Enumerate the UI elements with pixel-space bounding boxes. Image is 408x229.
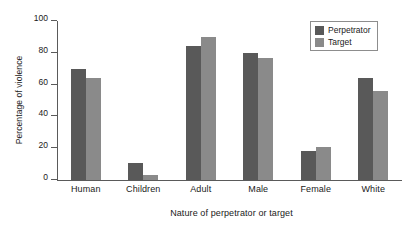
bar-perpetrator-children [128,163,143,180]
bar-perpetrator-female [301,151,316,180]
legend-label-target: Target [328,37,352,47]
y-axis-tick-label: 80 [39,45,48,55]
x-axis-title: Nature of perpetrator or target [55,208,408,218]
bar-target-male [258,58,273,180]
legend-item-target: Target [315,37,371,47]
legend-item-perpetrator: Perpetrator [315,25,371,35]
y-axis-tick-label: 40 [39,108,48,118]
y-axis-tick: 100 [51,20,57,21]
bar-target-adult [201,37,216,180]
y-axis-tick: 0 [51,179,57,180]
bar-chart: Percentage of violence 020406080100 Huma… [0,0,408,229]
bar-perpetrator-human [71,69,86,180]
x-axis-label-children: Children [115,184,173,194]
y-axis-tick: 80 [51,52,57,53]
bar-target-female [316,147,331,180]
bar-group [243,21,273,180]
bar-target-white [373,91,388,180]
x-axis-label-female: Female [287,184,345,194]
y-axis-tick-label: 0 [43,172,48,182]
x-axis-label-white: White [345,184,403,194]
y-axis-tick: 40 [51,115,57,116]
x-axis-label-adult: Adult [172,184,230,194]
y-axis-tick-label: 100 [34,13,48,23]
legend-swatch-perpetrator [315,26,324,35]
y-axis-tick: 20 [51,147,57,148]
bar-perpetrator-adult [186,46,201,180]
x-axis-label-male: Male [230,184,288,194]
bar-perpetrator-white [358,78,373,180]
x-axis-line [57,180,402,181]
bar-target-children [143,175,158,180]
legend-swatch-target [315,38,324,47]
x-axis-label-human: Human [57,184,115,194]
y-axis-tick-label: 20 [39,140,48,150]
y-axis-line [57,21,58,180]
y-axis-tick-label: 60 [39,77,48,87]
y-axis-title: Percentage of violence [14,10,30,190]
bar-group [128,21,158,180]
y-axis-tick: 60 [51,84,57,85]
bar-group [71,21,101,180]
legend: Perpetrator Target [310,21,378,51]
bar-perpetrator-male [243,53,258,180]
legend-label-perpetrator: Perpetrator [328,25,371,35]
bar-target-human [86,78,101,180]
bar-group [186,21,216,180]
